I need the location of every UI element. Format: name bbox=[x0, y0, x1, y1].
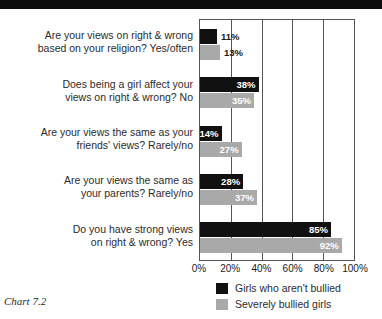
category-label-line: on right & wrong? Yes bbox=[73, 236, 193, 249]
x-axis: 0%20%40%60%80%100% bbox=[199, 263, 355, 279]
x-tick-label: 80% bbox=[314, 263, 334, 274]
bar-row[interactable]: 85% bbox=[200, 222, 354, 237]
plot-area: 11%13%38%35%14%27%28%37%85%92% bbox=[199, 19, 355, 261]
bar-row[interactable]: 38% bbox=[200, 77, 354, 92]
bar-value-label: 14% bbox=[200, 126, 219, 141]
category-label-line: Are your views the same as bbox=[64, 174, 193, 187]
bar-row[interactable]: 37% bbox=[200, 190, 354, 205]
bar-value-label: 38% bbox=[237, 77, 256, 92]
category-label: Are your views on right & wrongbased on … bbox=[38, 29, 193, 55]
category-label: Are your views the same asyour parents? … bbox=[64, 174, 193, 200]
bar-row[interactable]: 13% bbox=[200, 45, 354, 60]
x-tick-label: 100% bbox=[342, 263, 368, 274]
category-label-line: your parents? Rarely/no bbox=[64, 187, 193, 200]
category-label-line: friends' views? Rarely/no bbox=[41, 139, 193, 152]
bar-value-label: 85% bbox=[309, 222, 328, 237]
x-tick-label: 0% bbox=[192, 263, 206, 274]
bar-group: 11%13% bbox=[200, 29, 354, 61]
legend-item: Girls who aren't bullied bbox=[216, 281, 341, 295]
bar-row[interactable]: 27% bbox=[200, 142, 354, 157]
bar-value-label: 13% bbox=[224, 45, 243, 60]
chart-legend: Girls who aren't bullied Severely bullie… bbox=[216, 281, 341, 313]
category-label-line: views on right & wrong? No bbox=[62, 91, 193, 104]
category-label-line: based on your religion? Yes/often bbox=[38, 42, 193, 55]
bar-group: 85%92% bbox=[200, 222, 354, 254]
x-tick-label: 40% bbox=[251, 263, 271, 274]
category-label: Are your views the same as yourfriends' … bbox=[41, 126, 193, 152]
bar-row[interactable]: 11% bbox=[200, 29, 354, 44]
legend-item: Severely bullied girls bbox=[216, 297, 341, 311]
bar-value-label: 28% bbox=[221, 174, 240, 189]
bar-row[interactable]: 14% bbox=[200, 126, 354, 141]
bar-group: 14%27% bbox=[200, 126, 354, 158]
bar[interactable] bbox=[200, 29, 217, 44]
legend-swatch-icon bbox=[216, 299, 228, 310]
legend-swatch-icon bbox=[216, 283, 228, 294]
bar-value-label: 35% bbox=[232, 93, 251, 108]
category-label-line: Are your views the same as your bbox=[41, 126, 193, 139]
chart-caption: Chart 7.2 bbox=[4, 295, 46, 307]
bar-value-label: 37% bbox=[235, 190, 254, 205]
category-label-line: Do you have strong views bbox=[73, 223, 193, 236]
x-tick-label: 20% bbox=[220, 263, 240, 274]
bar-chart: 11%13%38%35%14%27%28%37%85%92% Are your … bbox=[0, 9, 382, 319]
category-label-line: Are your views on right & wrong bbox=[38, 29, 193, 42]
category-label: Do you have strong viewson right & wrong… bbox=[73, 223, 193, 249]
bar-row[interactable]: 35% bbox=[200, 93, 354, 108]
bar[interactable] bbox=[200, 45, 220, 60]
chart-title-bar: Comparison of right & wrong views among … bbox=[0, 0, 382, 9]
x-tick-label: 60% bbox=[283, 263, 303, 274]
bar-group: 28%37% bbox=[200, 174, 354, 206]
bar-value-label: 11% bbox=[221, 29, 240, 44]
bar-row[interactable]: 92% bbox=[200, 238, 354, 253]
legend-item-label: Girls who aren't bullied bbox=[235, 282, 341, 294]
bar-value-label: 27% bbox=[220, 142, 239, 157]
legend-item-label: Severely bullied girls bbox=[235, 298, 331, 310]
category-label: Does being a girl affect yourviews on ri… bbox=[62, 78, 193, 104]
bar-group: 38%35% bbox=[200, 77, 354, 109]
bar-row[interactable]: 28% bbox=[200, 174, 354, 189]
category-label-line: Does being a girl affect your bbox=[62, 78, 193, 91]
bar-value-label: 92% bbox=[320, 238, 339, 253]
